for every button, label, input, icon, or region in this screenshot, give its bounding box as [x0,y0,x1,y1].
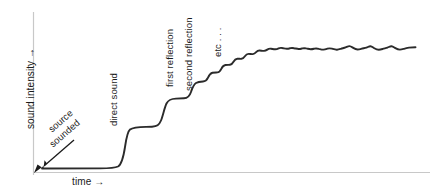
annotation-etc: etc . . . [213,28,223,57]
annotation-direct-sound: direct sound [109,73,119,126]
source-sounded-arrowhead [34,160,47,173]
echogram-figure: sound intensity → time → source sounded … [0,0,430,192]
annotation-second-reflection: second reflection [184,17,194,91]
x-axis-label: time → [72,177,104,187]
y-axis-label: sound intensity → [26,48,36,129]
annotation-first-reflection: first reflection [165,29,175,87]
